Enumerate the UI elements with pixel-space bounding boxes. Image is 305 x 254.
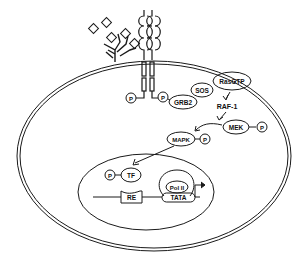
pol2-complex-loop [159, 170, 194, 196]
re-label: RE [127, 194, 137, 201]
sos-label: SOS [195, 87, 209, 94]
tf-label: TF [127, 172, 135, 179]
extracellular-matrix-tree [104, 34, 136, 62]
signaling-pathway-diagram: P P GRB2 SOS RasGTP RAF-1 MEK P MAPK P P… [0, 0, 305, 254]
mapk-label: MAPK [172, 137, 190, 143]
raf1-label: RAF-1 [217, 103, 238, 110]
tata-label: TATA [171, 194, 187, 201]
receptor-phospho-left-label: P [129, 96, 133, 102]
nucleus [78, 154, 214, 230]
transcription-start-arrow [195, 182, 205, 197]
receptor-phospho-right-label: P [161, 95, 165, 101]
rasgtp-label: RasGTP [219, 78, 245, 85]
mapk-phospho-label: P [203, 137, 207, 143]
receptor [136, 10, 160, 98]
arrow-ras-raf [223, 92, 230, 100]
arrow-mek-mapk [195, 124, 222, 131]
pol2-label: Pol II [170, 185, 185, 191]
mek-phospho-label: P [260, 125, 264, 131]
ligand-molecules [89, 18, 140, 49]
tf-phospho-label: P [108, 173, 112, 179]
arrow-raf-mek [217, 112, 226, 120]
mek-label: MEK [229, 124, 244, 131]
grb2-label: GRB2 [174, 99, 192, 106]
